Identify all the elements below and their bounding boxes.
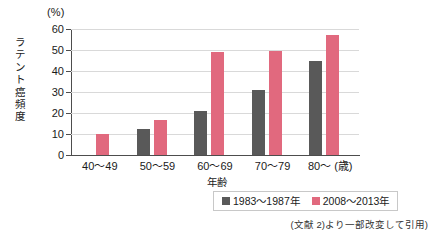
- bar-series2: [326, 35, 339, 155]
- x-axis-category-label: 40～49: [71, 160, 129, 172]
- y-axis-tick-label: 40: [42, 66, 64, 77]
- y-axis-tick-mark: [66, 92, 71, 93]
- bar-group: [71, 29, 129, 155]
- y-axis-tick-mark: [66, 155, 71, 156]
- y-axis-tick-label: 10: [42, 129, 64, 140]
- legend-swatch-icon: [222, 197, 230, 205]
- y-axis-tick-mark: [66, 71, 71, 72]
- x-axis-title: 年齢: [0, 174, 434, 189]
- bar-series2: [269, 51, 282, 155]
- bar-series1: [252, 90, 265, 155]
- chart-legend: 1983～1987年2008～2013年: [213, 191, 398, 211]
- x-axis-category-label: 80～ (歳): [301, 160, 359, 172]
- bar-series1: [137, 129, 150, 155]
- x-axis-category-label: 70～79: [244, 160, 302, 172]
- legend-label: 2008～2013年: [323, 195, 390, 207]
- bar-series1: [309, 61, 322, 156]
- x-axis-line: [71, 155, 360, 156]
- bar-series1: [194, 111, 207, 155]
- bar-group: [186, 29, 244, 155]
- y-axis-tick-label: 50: [42, 45, 64, 56]
- x-axis-category-label: 50～59: [129, 160, 187, 172]
- y-axis-tick-label: 20: [42, 108, 64, 119]
- bar-group: [244, 29, 302, 155]
- y-axis-title: ラテント癌頻度: [12, 36, 28, 123]
- source-note: (文献 2)より一部改変して引用): [291, 217, 428, 231]
- bar-group: [301, 29, 359, 155]
- plot-area: [71, 29, 359, 155]
- y-axis-tick-mark: [66, 29, 71, 30]
- legend-item: 1983～1987年: [222, 195, 300, 207]
- y-axis-tick-label: 0: [42, 150, 64, 161]
- bar-series2: [96, 134, 109, 155]
- y-axis-tick-label: 30: [42, 87, 64, 98]
- x-axis-category-label: 60～69: [186, 160, 244, 172]
- y-axis-tick-label: 60: [42, 24, 64, 35]
- legend-item: 2008～2013年: [312, 195, 390, 207]
- bar-series2: [154, 120, 167, 155]
- legend-swatch-icon: [312, 197, 320, 205]
- bar-group: [129, 29, 187, 155]
- legend-label: 1983～1987年: [233, 195, 300, 207]
- y-axis-tick-mark: [66, 113, 71, 114]
- y-axis-tick-mark: [66, 50, 71, 51]
- y-axis-tick-mark: [66, 134, 71, 135]
- bar-series2: [211, 52, 224, 155]
- y-axis-tick-labels: 0102030405060: [40, 0, 64, 235]
- chart-figure: (%) ラテント癌頻度 0102030405060 年齢 1983～1987年2…: [0, 0, 434, 235]
